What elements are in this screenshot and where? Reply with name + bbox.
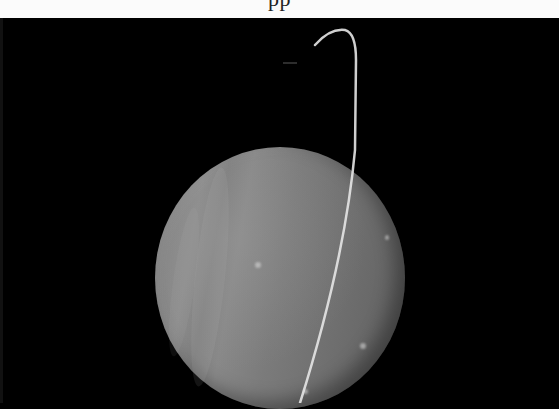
ring-arc: [0, 0, 559, 403]
